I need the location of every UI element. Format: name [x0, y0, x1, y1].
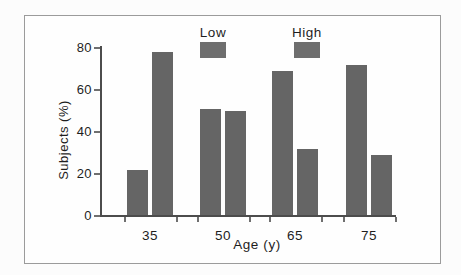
x-axis-line — [100, 215, 396, 217]
y-tick-label: 80 — [62, 41, 92, 55]
y-tick-label: 60 — [62, 83, 92, 97]
x-category-label: 65 — [275, 228, 315, 243]
x-tick — [395, 217, 397, 222]
y-tick-label: 0 — [62, 209, 92, 223]
bar-high-35 — [152, 52, 173, 216]
bar-high-65 — [297, 149, 318, 216]
bar-low-75 — [346, 65, 367, 216]
x-tick — [343, 217, 345, 222]
bar-high-75 — [371, 155, 392, 216]
y-axis-line — [100, 46, 102, 217]
x-tick — [269, 217, 271, 222]
x-tick — [176, 217, 178, 222]
x-tick — [197, 217, 199, 222]
bar-high-50 — [225, 111, 246, 216]
legend-label-low: Low — [185, 25, 241, 40]
bar-low-35 — [127, 170, 148, 216]
x-axis-title: Age (y) — [233, 237, 281, 252]
legend-swatch-low-icon — [200, 42, 226, 58]
figure-canvas: 02040608035506575 Subjects (%) Age (y) L… — [0, 0, 461, 275]
x-tick — [124, 217, 126, 222]
y-axis-title: Subjects (%) — [56, 100, 71, 180]
x-tick — [321, 217, 323, 222]
bar-low-65 — [272, 71, 293, 216]
x-category-label: 35 — [130, 228, 170, 243]
legend-swatch-high-icon — [294, 42, 320, 58]
legend-item-low: Low — [185, 25, 241, 58]
legend-item-high: High — [279, 25, 335, 58]
x-tick — [249, 217, 251, 222]
bar-low-50 — [200, 109, 221, 216]
legend-label-high: High — [279, 25, 335, 40]
x-category-label: 75 — [349, 228, 389, 243]
